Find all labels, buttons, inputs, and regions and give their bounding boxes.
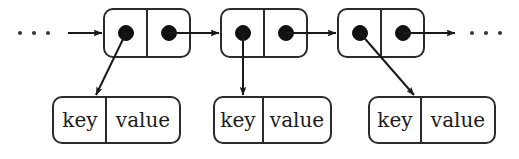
diagram-canvas: key value key value key value: [0, 0, 519, 159]
entry-1-key-label: key: [62, 108, 98, 132]
left-ellipsis: [18, 31, 50, 35]
entry-1[interactable]: key value: [53, 97, 180, 143]
entry-3[interactable]: key value: [369, 97, 495, 143]
entry-1-value-label: value: [115, 108, 170, 132]
entry-2-key-label: key: [220, 108, 256, 132]
entry-3-value-label: value: [430, 108, 485, 132]
right-ellipsis: [470, 31, 502, 35]
entry-3-key-label: key: [377, 108, 413, 132]
linked-list-diagram: key value key value key value: [0, 0, 519, 159]
entry-2[interactable]: key value: [214, 97, 331, 143]
entry-2-value-label: value: [269, 108, 324, 132]
